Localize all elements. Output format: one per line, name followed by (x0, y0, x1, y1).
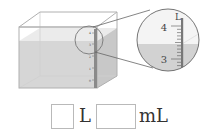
svg-text:1: 1 (89, 67, 91, 71)
svg-text:2: 2 (89, 55, 91, 59)
scale-bar (94, 29, 97, 88)
liters-input-box[interactable] (51, 104, 74, 129)
tank: 4 3 2 1 0 (19, 12, 117, 88)
milliliters-input-box[interactable] (96, 104, 136, 129)
svg-text:3: 3 (89, 43, 91, 47)
liters-unit-label: L (79, 105, 91, 127)
svg-text:0: 0 (89, 79, 91, 83)
water-tank-figure: 4 3 2 1 0 (0, 0, 214, 95)
milliliters-unit-label: mL (139, 105, 168, 127)
mag-unit-label: L (175, 12, 181, 22)
answer-row: L mL (0, 102, 214, 132)
svg-text:4: 4 (89, 31, 91, 35)
mag-label-upper: 4 (161, 22, 167, 33)
magnifier: 4 3 L (135, 5, 205, 75)
mag-label-lower: 3 (161, 54, 167, 65)
